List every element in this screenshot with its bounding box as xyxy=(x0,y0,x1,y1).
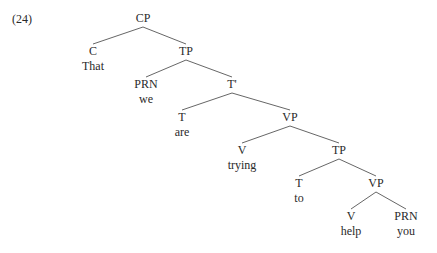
node-t2: Tto xyxy=(294,177,303,205)
node-category: PRN xyxy=(134,78,157,91)
node-v2: Vhelp xyxy=(341,210,362,238)
edge-tp2-vp2 xyxy=(339,159,376,176)
edge-tp1-prn1 xyxy=(146,60,186,77)
node-category: VP xyxy=(282,111,297,124)
node-category: V xyxy=(228,144,257,157)
node-tbar: T' xyxy=(227,78,237,91)
node-t1: Tare xyxy=(175,111,190,139)
node-word: to xyxy=(294,192,303,205)
node-category: T xyxy=(294,177,303,190)
edge-cp-tp1 xyxy=(143,27,186,44)
edge-vp1-tp2 xyxy=(290,126,339,143)
edge-vp2-prn2 xyxy=(376,192,406,209)
node-category: C xyxy=(82,45,104,58)
node-category: PRN xyxy=(394,210,417,223)
node-prn1: PRNwe xyxy=(134,78,157,106)
node-tp2: TP xyxy=(332,144,346,157)
edge-cp-c xyxy=(93,27,143,44)
node-tp1: TP xyxy=(179,45,193,58)
edge-tp2-t2 xyxy=(299,159,339,176)
edge-tbar-t1 xyxy=(182,93,232,110)
node-category: V xyxy=(341,210,362,223)
node-word: trying xyxy=(228,159,257,172)
node-vp1: VP xyxy=(282,111,297,124)
node-category: T' xyxy=(227,78,237,91)
tree-edges xyxy=(0,0,437,253)
node-category: T xyxy=(175,111,190,124)
node-category: TP xyxy=(179,45,193,58)
edge-vp2-v2 xyxy=(351,192,376,209)
node-category: VP xyxy=(368,177,383,190)
node-prn2: PRNyou xyxy=(394,210,417,238)
node-word: are xyxy=(175,126,190,139)
edge-tbar-vp1 xyxy=(232,93,290,110)
node-word: That xyxy=(82,60,104,73)
node-word: you xyxy=(394,225,417,238)
node-category: TP xyxy=(332,144,346,157)
edge-tp1-tbar xyxy=(186,60,232,77)
node-v1: Vtrying xyxy=(228,144,257,172)
edge-vp1-v1 xyxy=(242,126,290,143)
node-word: help xyxy=(341,225,362,238)
node-vp2: VP xyxy=(368,177,383,190)
node-word: we xyxy=(134,93,157,106)
node-cp: CP xyxy=(136,12,151,25)
node-c: CThat xyxy=(82,45,104,73)
node-category: CP xyxy=(136,12,151,25)
